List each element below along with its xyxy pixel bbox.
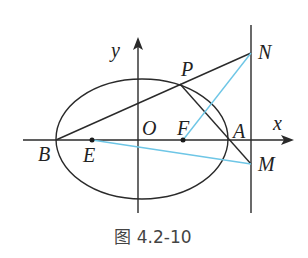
figure-canvas: y x O F A B E P N M 图 4.2-10 <box>0 0 308 258</box>
label-p: P <box>180 58 193 80</box>
label-x: x <box>272 112 282 134</box>
label-m: M <box>257 153 276 175</box>
label-n: N <box>257 41 273 63</box>
label-b: B <box>38 143 50 165</box>
label-o: O <box>142 117 156 139</box>
label-a: A <box>231 120 246 142</box>
label-y: y <box>109 39 120 62</box>
ellipse <box>56 79 228 199</box>
figure-caption: 图 4.2-10 <box>114 227 191 247</box>
point-e-dot <box>90 138 95 143</box>
label-e: E <box>82 144 95 166</box>
label-f: F <box>176 117 190 139</box>
